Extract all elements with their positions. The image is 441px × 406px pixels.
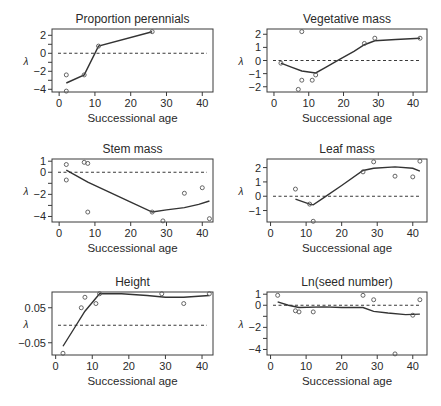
y-axis-label: λ <box>23 186 29 197</box>
y-tick-label: 0 <box>255 190 261 202</box>
x-tick-label: 0 <box>56 227 62 239</box>
x-tick-label: 20 <box>125 97 137 109</box>
x-tick-label: 30 <box>371 227 383 239</box>
panel-title: Leaf mass <box>319 142 374 156</box>
data-point <box>418 159 422 163</box>
x-tick-label: 40 <box>407 360 419 372</box>
x-tick-label: 10 <box>89 97 101 109</box>
data-point <box>311 310 315 314</box>
y-axis-label: λ <box>238 56 244 67</box>
y-tick-label: 0 <box>40 47 46 59</box>
y-tick-label: 2 <box>40 29 46 41</box>
fitted-curve <box>295 167 419 205</box>
y-tick-label: 1 <box>255 176 261 188</box>
data-point <box>372 298 376 302</box>
y-axis-label: λ <box>23 319 29 330</box>
x-axis-label: Successional age <box>302 242 392 254</box>
data-point <box>296 87 300 91</box>
panel-title: Height <box>115 275 150 289</box>
x-tick-label: 30 <box>160 227 172 239</box>
data-point <box>373 36 377 40</box>
x-tick-label: 10 <box>86 360 98 372</box>
x-tick-label: 20 <box>123 360 135 372</box>
x-tick-label: 30 <box>371 360 383 372</box>
x-tick-label: 40 <box>196 227 208 239</box>
fitted-curve <box>63 294 209 347</box>
x-tick-label: 40 <box>407 97 419 109</box>
y-tick-label: −1 <box>248 205 261 217</box>
data-point <box>411 175 415 179</box>
data-point <box>64 178 68 182</box>
fitted-curve <box>66 32 152 83</box>
data-point <box>64 73 68 77</box>
plot-area: 01020304010−2−4 <box>33 155 213 239</box>
y-tick-label: −4 <box>33 210 46 222</box>
y-tick-label: 0 <box>255 299 261 311</box>
x-tick-label: 30 <box>372 97 384 109</box>
x-tick-label: 20 <box>336 227 348 239</box>
y-tick-label: −4 <box>248 343 261 355</box>
panel-height: Height Successional age λ 0102030400.05−… <box>18 275 213 387</box>
y-tick-label: 1 <box>255 41 261 53</box>
y-tick-label: 2 <box>255 28 261 40</box>
data-point <box>418 298 422 302</box>
x-tick-label: 10 <box>300 360 312 372</box>
data-point <box>300 30 304 34</box>
x-tick-label: 20 <box>336 360 348 372</box>
panel-leaf-mass: Leaf mass Successional age λ 01020304021… <box>238 142 427 254</box>
data-point <box>207 217 211 221</box>
panel-title: Vegetative mass <box>303 12 391 26</box>
x-tick-label: 30 <box>159 360 171 372</box>
x-axis-label: Successional age <box>87 112 177 124</box>
plot-frame <box>267 292 427 355</box>
x-tick-label: 0 <box>56 97 62 109</box>
data-point <box>311 219 315 223</box>
x-axis-label: Successional age <box>87 375 177 387</box>
x-tick-label: 30 <box>160 97 172 109</box>
y-tick-label: −2 <box>33 188 46 200</box>
data-point <box>372 160 376 164</box>
x-tick-label: 10 <box>300 227 312 239</box>
data-point <box>300 78 304 82</box>
panel-vegetative-mass: Vegetative mass Successional age λ 01020… <box>238 12 427 124</box>
panel-proportion-perennials: Proportion perennials Successional age λ… <box>23 12 213 124</box>
panel-title: Proportion perennials <box>75 12 189 26</box>
y-axis-label: λ <box>238 186 244 197</box>
data-point <box>182 191 186 195</box>
y-tick-label: −2 <box>248 321 261 333</box>
x-tick-label: 40 <box>196 360 208 372</box>
fitted-curve <box>278 302 420 315</box>
x-tick-label: 0 <box>53 360 59 372</box>
plot-area: 0102030400.05−0.05 <box>18 292 213 372</box>
y-tick-label: −2 <box>248 81 261 93</box>
fitted-curve <box>66 170 209 212</box>
y-tick-label: 0 <box>255 55 261 67</box>
x-tick-label: 0 <box>267 227 273 239</box>
panel-title: Ln(seed number) <box>301 275 392 289</box>
plot-area: 010203040210−1−2 <box>248 28 427 109</box>
x-axis-label: Successional age <box>87 242 177 254</box>
y-axis-label: λ <box>238 319 244 330</box>
data-point <box>200 186 204 190</box>
data-point <box>361 293 365 297</box>
x-tick-label: 0 <box>271 97 277 109</box>
panel-ln-seed-number: Ln(seed number) Successional age λ 01020… <box>238 275 427 387</box>
x-tick-label: 0 <box>267 360 273 372</box>
data-point <box>182 302 186 306</box>
plot-area: 01020304020−2−4 <box>33 29 213 109</box>
x-tick-label: 40 <box>196 97 208 109</box>
data-point <box>293 187 297 191</box>
data-point <box>276 293 280 297</box>
fitted-curve <box>281 38 420 73</box>
plot-area: 01020304010−2−4 <box>248 288 427 372</box>
panel-title: Stem mass <box>102 142 162 156</box>
y-tick-label: −0.05 <box>18 337 46 349</box>
y-tick-label: −2 <box>33 65 46 77</box>
data-point <box>83 295 87 299</box>
x-tick-label: 20 <box>125 227 137 239</box>
x-axis-label: Successional age <box>302 112 392 124</box>
x-tick-label: 40 <box>407 227 419 239</box>
x-tick-label: 20 <box>337 97 349 109</box>
plot-frame <box>52 159 213 222</box>
x-tick-label: 10 <box>303 97 315 109</box>
